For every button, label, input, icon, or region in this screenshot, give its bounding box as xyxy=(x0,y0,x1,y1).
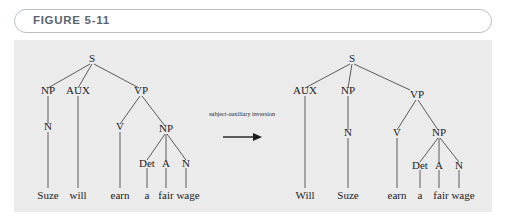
figure-label: FIGURE 5-11 xyxy=(33,14,110,26)
branch-s-vp xyxy=(94,64,139,88)
syntax-trees-svg: S NP AUX VP N V NP Det A N Suze will ear… xyxy=(14,40,492,212)
right-leaf-a: a xyxy=(418,189,423,201)
right-leaf-will: Will xyxy=(295,189,314,201)
right-node-v: V xyxy=(393,126,401,138)
left-leaf-fair: fair xyxy=(158,189,174,201)
right-node-det: Det xyxy=(412,159,428,171)
transform-label: subject-auxiliary inversion xyxy=(209,110,275,117)
transform-annotation: subject-auxiliary inversion xyxy=(209,110,275,141)
left-leaf-wage: wage xyxy=(176,189,199,201)
right-leaf-fair: fair xyxy=(433,189,449,201)
left-node-a: A xyxy=(162,157,170,169)
left-leaf-earn: earn xyxy=(111,189,130,201)
left-node-v: V xyxy=(116,120,124,132)
right-node-np2: NP xyxy=(432,126,446,138)
left-node-np2: NP xyxy=(159,122,173,134)
right-node-a: A xyxy=(435,159,443,171)
figure-container: FIGURE 5-11 xyxy=(0,0,511,224)
left-node-s: S xyxy=(89,52,95,64)
left-leaf-will: will xyxy=(69,189,86,201)
r-branch-s-vp xyxy=(354,64,410,90)
left-tree: S NP AUX VP N V NP Det A N Suze will ear… xyxy=(37,52,199,201)
left-leaf-suze: Suze xyxy=(37,189,59,201)
right-node-np: NP xyxy=(341,84,355,96)
left-node-det: Det xyxy=(139,157,155,169)
right-leaf-wage: wage xyxy=(451,189,474,201)
right-tree: S AUX NP VP N V NP Det A N Will Suze ear… xyxy=(293,52,475,201)
left-node-n2: N xyxy=(182,157,190,169)
right-node-aux: AUX xyxy=(293,84,317,96)
figure-panel: S NP AUX VP N V NP Det A N Suze will ear… xyxy=(14,40,492,212)
right-node-s: S xyxy=(349,52,355,64)
arrow-head-icon xyxy=(253,133,262,141)
right-leaf-suze: Suze xyxy=(337,189,359,201)
right-leaf-earn: earn xyxy=(388,189,407,201)
left-leaf-a: a xyxy=(145,189,150,201)
figure-header-capsule: FIGURE 5-11 xyxy=(14,9,492,33)
right-node-n1: N xyxy=(344,126,352,138)
left-node-np: NP xyxy=(41,84,55,96)
right-node-n2: N xyxy=(455,159,463,171)
left-node-vp: VP xyxy=(134,84,148,96)
left-node-n1: N xyxy=(44,120,52,132)
right-node-vp: VP xyxy=(410,88,424,100)
left-node-aux: AUX xyxy=(66,84,90,96)
